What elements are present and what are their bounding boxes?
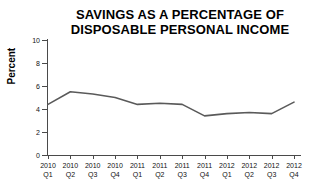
y-axis-tick bbox=[42, 86, 48, 87]
y-axis-line bbox=[47, 39, 48, 156]
y-axis-tick-label: 8 bbox=[24, 60, 40, 67]
x-axis-tick bbox=[137, 155, 138, 159]
x-axis-tick bbox=[48, 155, 49, 159]
chart-title-line-2: DISPOSABLE PERSONAL INCOME bbox=[52, 22, 308, 37]
y-axis-tick bbox=[42, 63, 48, 64]
chart-title: SAVINGS AS A PERCENTAGE OF DISPOSABLE PE… bbox=[52, 7, 308, 37]
x-axis-tick bbox=[93, 155, 94, 159]
y-axis-tick bbox=[42, 132, 48, 133]
y-axis-tick-label: 2 bbox=[24, 129, 40, 136]
x-axis-tick bbox=[182, 155, 183, 159]
x-axis-tick bbox=[294, 155, 295, 159]
y-axis-tick-label: 10 bbox=[24, 37, 40, 44]
x-axis-tick bbox=[205, 155, 206, 159]
x-axis-tick bbox=[115, 155, 116, 159]
y-axis-tick-label: 4 bbox=[24, 106, 40, 113]
x-axis-tick-label-year: 2012 bbox=[281, 161, 307, 170]
y-axis-tick bbox=[42, 109, 48, 110]
x-axis-tick-label: 2012Q4 bbox=[281, 161, 307, 179]
x-axis-tick bbox=[249, 155, 250, 159]
y-axis-tick bbox=[42, 40, 48, 41]
x-axis-tick bbox=[70, 155, 71, 159]
x-axis-tick bbox=[227, 155, 228, 159]
x-axis-tick-label-quarter: Q4 bbox=[281, 170, 307, 179]
series-line-savings-rate bbox=[48, 92, 294, 116]
savings-rate-line-chart: SAVINGS AS A PERCENTAGE OF DISPOSABLE PE… bbox=[0, 0, 313, 188]
x-axis-tick bbox=[272, 155, 273, 159]
y-axis-tick-label: 6 bbox=[24, 83, 40, 90]
chart-title-line-1: SAVINGS AS A PERCENTAGE OF bbox=[52, 7, 308, 22]
x-axis-line bbox=[47, 155, 301, 156]
y-axis-title: Percent bbox=[6, 71, 17, 85]
x-axis-tick bbox=[160, 155, 161, 159]
y-axis-tick-label: 0 bbox=[24, 152, 40, 159]
